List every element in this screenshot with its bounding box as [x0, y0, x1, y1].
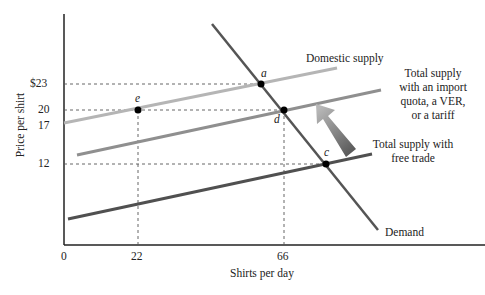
free-trade-label-line1: Total supply with [358, 137, 468, 151]
point-c [323, 161, 330, 168]
point-e [135, 107, 142, 114]
point-a [258, 81, 265, 88]
y-tick-12: 12 [38, 157, 50, 169]
point-c-label: c [324, 146, 329, 158]
quota-supply-label: Total supply with an import quota, a VER… [383, 66, 483, 122]
domestic-supply-label: Domestic supply [306, 51, 384, 65]
y-tick-17: 17 [38, 119, 50, 131]
y-tick-20: 20 [38, 103, 50, 115]
x-axis-label: Shirts per day [230, 266, 294, 280]
quota-supply-label-line4: or a tariff [383, 108, 483, 122]
y-tick-23: $23 [30, 77, 47, 89]
x-tick-0: 0 [61, 250, 67, 262]
quota-supply-label-line3: quota, a VER, [383, 94, 483, 108]
domestic-supply-line [64, 68, 337, 123]
quota-supply-label-line1: Total supply [383, 66, 483, 80]
quota-supply-label-line2: with an import [383, 80, 483, 94]
point-d-label: d [274, 113, 280, 125]
x-tick-22: 22 [131, 250, 143, 262]
point-d [281, 107, 288, 114]
y-axis-label: Price per shirt [13, 75, 27, 175]
point-a-label: a [261, 67, 267, 79]
quota-supply-line [77, 90, 381, 155]
x-tick-66: 66 [277, 250, 289, 262]
free-trade-label-line2: free trade [358, 151, 468, 165]
demand-label: Demand [385, 225, 424, 239]
shift-arrow-icon [316, 104, 356, 157]
free-trade-supply-label: Total supply with free trade [358, 137, 468, 165]
point-e-label: e [135, 92, 140, 104]
